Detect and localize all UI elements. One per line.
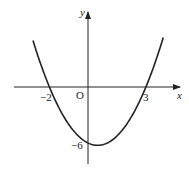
y-tick-neg6: −6 xyxy=(71,140,83,151)
x-tick-neg2: −2 xyxy=(40,92,52,103)
x-axis-label: x xyxy=(177,90,182,101)
graph-canvas xyxy=(0,0,189,169)
parabola-graph: y x O −2 3 −6 xyxy=(0,0,189,169)
y-axis-label: y xyxy=(80,7,85,18)
x-tick-3: 3 xyxy=(143,92,149,103)
origin-label: O xyxy=(76,90,84,101)
